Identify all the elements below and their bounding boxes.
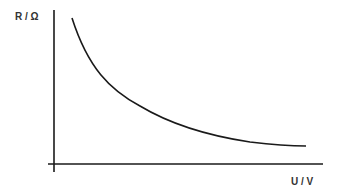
- chart-plot: [0, 0, 339, 191]
- curve: [72, 18, 306, 146]
